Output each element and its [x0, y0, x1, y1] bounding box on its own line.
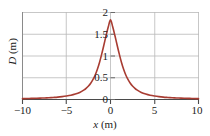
xtick-label-10: 10 [185, 105, 209, 116]
xtick-label-minus10: −10 [6, 105, 39, 116]
y-axis-title: D (m) [7, 29, 18, 75]
xtick-label-minus5: −5 [52, 105, 81, 116]
ytick-label-0p5: 0.5 [86, 72, 108, 83]
chart-figure: 2 1.5 1 0.5 0 −10 −5 0 5 10 D (m) x (m) [0, 0, 210, 136]
xtick-label-0: 0 [98, 105, 123, 116]
y-axis-title-variable: D [6, 57, 18, 65]
ytick-label-1: 1 [86, 51, 108, 62]
y-axis-title-unit: (m) [6, 38, 18, 57]
ytick-label-1p5: 1.5 [86, 29, 108, 40]
ytick-label-2: 2 [86, 7, 108, 18]
x-axis-title: x (m) [0, 119, 210, 130]
xtick-label-5: 5 [142, 105, 167, 116]
x-axis-title-unit: (m) [98, 118, 117, 130]
ytick-label-0: 0 [86, 94, 108, 105]
